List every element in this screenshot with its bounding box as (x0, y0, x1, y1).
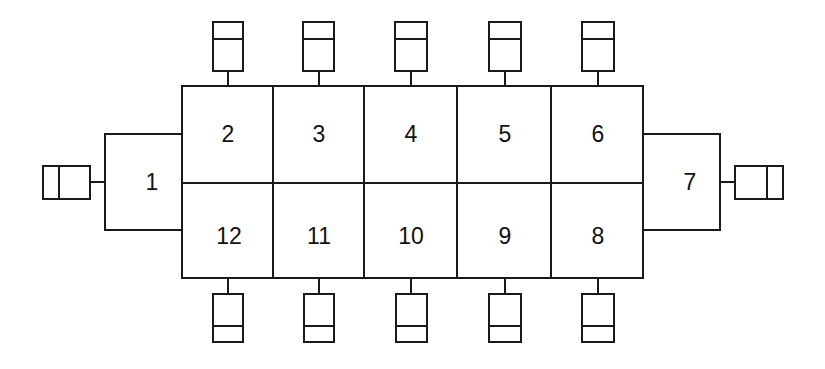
bottom-module-icon (213, 278, 243, 342)
block-7-label: 7 (684, 169, 697, 195)
top-module-icon (489, 22, 521, 86)
right-module-icon (720, 166, 783, 199)
block-diagram: 1 7 2 3 4 5 6 12 11 10 9 8 (0, 0, 825, 369)
cell-10-label: 10 (398, 223, 424, 249)
top-module-icon (213, 22, 243, 86)
cell-4-label: 4 (405, 121, 418, 147)
cell-9-label: 9 (499, 223, 512, 249)
bottom-module-icon (304, 278, 334, 342)
cell-3-label: 3 (313, 121, 326, 147)
block-1-label: 1 (146, 169, 159, 195)
bottom-module-icon (489, 278, 521, 342)
cell-8-label: 8 (592, 223, 605, 249)
cell-6-label: 6 (592, 121, 605, 147)
block-7: 7 (643, 134, 720, 230)
left-module-icon (43, 166, 105, 199)
cell-5-label: 5 (499, 121, 512, 147)
top-module-icon (303, 22, 334, 86)
cell-2-label: 2 (222, 121, 235, 147)
block-1: 1 (105, 134, 182, 230)
top-module-icon (582, 22, 614, 86)
main-grid: 2 3 4 5 6 12 11 10 9 8 (182, 86, 643, 278)
bottom-module-icon (582, 278, 614, 342)
cell-11-label: 11 (307, 223, 331, 249)
cell-12-label: 12 (216, 223, 242, 249)
top-module-icon (395, 22, 427, 86)
bottom-module-icon (396, 278, 427, 342)
